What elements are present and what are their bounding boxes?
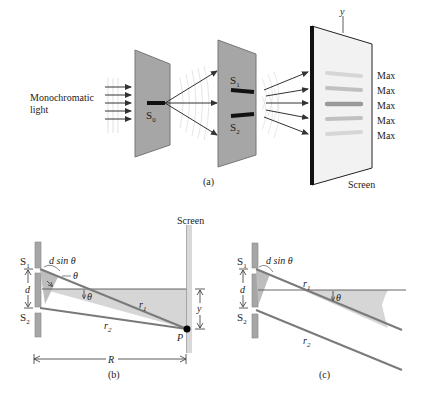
max-label: Max — [377, 70, 395, 81]
screen-b — [187, 225, 192, 353]
caption-c: (c) — [319, 369, 330, 381]
panel-c: S1 S2 d sin θ d θ r1 r2 (c) — [237, 243, 406, 381]
s2-label-b: S2 — [20, 311, 30, 326]
theta-label-c: θ — [336, 292, 341, 303]
double-slit-barrier — [218, 40, 256, 167]
screen-label-b: Screen — [177, 215, 204, 226]
max-label: Max — [377, 130, 395, 141]
path-diff-brace — [44, 265, 60, 271]
light-label-line2: light — [30, 104, 49, 115]
path-diff-label-c: d sin θ — [266, 255, 293, 266]
panel-b: Screen S1 S2 d sin θ θ d θ r1 r2 P y — [20, 215, 205, 381]
s1-label-c: S1 — [237, 255, 247, 270]
theta-label-small: θ — [73, 270, 78, 281]
y-axis-label: y — [339, 6, 345, 17]
panel-a: Monochromatic light S0 — [30, 6, 395, 190]
max-label: Max — [377, 100, 395, 111]
interfering-wavefronts — [262, 72, 279, 138]
angle-region — [42, 289, 187, 329]
slit-s1 — [231, 90, 254, 92]
barrier-top — [35, 242, 41, 268]
s1-label-b: S1 — [20, 255, 30, 270]
y-label-b: y — [196, 303, 202, 314]
max-label: Max — [377, 85, 395, 96]
light-label-line1: Monochromatic — [30, 92, 94, 103]
r2-label-b: r2 — [104, 320, 112, 334]
caption-b: (b) — [108, 369, 120, 381]
max-label: Max — [377, 115, 395, 126]
caption-a: (a) — [203, 176, 214, 188]
s2-label-c: S2 — [237, 311, 247, 326]
path-diff-label-b: d sin θ — [49, 255, 76, 266]
angle-region-c — [302, 290, 388, 328]
barrier-middle — [35, 273, 41, 307]
max-labels: Max Max Max Max Max — [377, 70, 395, 141]
barrier-top-c — [252, 243, 258, 268]
barrier-bottom — [35, 313, 41, 337]
p-label: P — [176, 332, 183, 343]
r2-label-c: r2 — [303, 335, 311, 349]
diverging-rays — [165, 71, 217, 135]
theta-label-b: θ — [87, 291, 92, 302]
screen-label-a: Screen — [348, 179, 375, 190]
point-p — [184, 326, 191, 333]
r-distance-label: R — [107, 354, 114, 365]
incoming-wavefronts — [108, 78, 118, 133]
double-slit-diagram: Monochromatic light S0 — [0, 0, 425, 404]
slit-s2 — [231, 114, 254, 116]
barrier-bottom-c — [252, 314, 258, 338]
